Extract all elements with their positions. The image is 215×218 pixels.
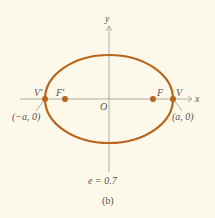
right-focus-label: F: [157, 88, 163, 98]
y-axis-label: y: [105, 14, 109, 24]
left-focus-label: F': [56, 88, 64, 98]
eccentricity-label: e = 0.7: [88, 176, 117, 186]
left-vertex-label: V': [34, 88, 42, 98]
left-vertex-point: [42, 96, 48, 102]
right-vertex-label: V: [176, 88, 182, 98]
left-coordinate-label: (−a, 0): [12, 112, 40, 122]
right-coordinate-label: (a, 0): [172, 112, 194, 122]
right-focus-point: [150, 96, 156, 102]
x-axis-label: x: [195, 94, 199, 104]
origin-label: O: [100, 102, 107, 112]
figure-caption: (b): [102, 196, 114, 206]
